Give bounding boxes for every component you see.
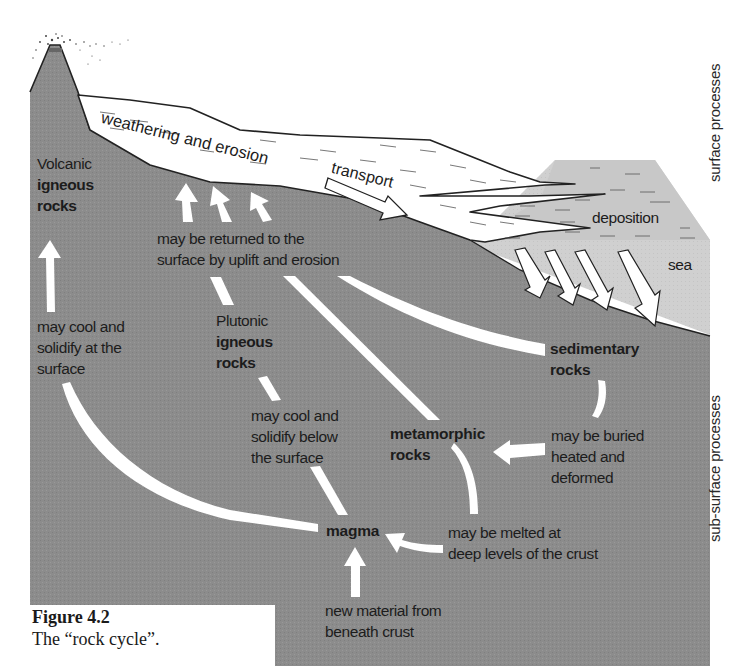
- cool-surface-line-1: may cool and: [37, 316, 124, 337]
- cool-at-surface-label: may cool and solidify at the surface: [37, 316, 124, 379]
- metamorphic-label: metamorphic: [390, 423, 485, 444]
- surface-processes-label: surface processes: [706, 64, 723, 182]
- uplift-line-2: surface by uplift and erosion: [157, 249, 339, 270]
- cool-surface-line-3: surface: [37, 358, 124, 379]
- sea-label: sea: [668, 254, 692, 275]
- subsurface-processes-label: sub-surface processes: [706, 395, 723, 542]
- figure-caption-text: The “rock cycle”.: [32, 628, 159, 650]
- uplift-line-1: may be returned to the: [157, 228, 339, 249]
- deposition-label: deposition: [592, 207, 659, 228]
- metamorphic-rocks-node: metamorphic rocks: [390, 423, 485, 465]
- sedimentary-label: sedimentary: [550, 338, 639, 359]
- figure-caption: Figure 4.2 The “rock cycle”.: [32, 606, 159, 650]
- buried-process-label: may be buried heated and deformed: [551, 425, 644, 488]
- magma-node: magma: [326, 520, 379, 541]
- figure-number: Figure 4.2: [32, 606, 159, 628]
- plutonic-igneous-label: igneous: [216, 331, 273, 352]
- metamorphic-rocks-label: rocks: [390, 444, 485, 465]
- buried-line-1: may be buried: [551, 425, 644, 446]
- new-material-label: new material from beneath crust: [325, 600, 441, 642]
- sedimentary-rocks-label: rocks: [550, 359, 639, 380]
- uplift-process-label: may be returned to the surface by uplift…: [157, 228, 339, 270]
- sedimentary-rocks-node: sedimentary rocks: [550, 338, 639, 380]
- buried-line-3: deformed: [551, 467, 644, 488]
- cool-surface-line-2: solidify at the: [37, 337, 124, 358]
- plutonic-label: Plutonic: [216, 310, 273, 331]
- buried-line-2: heated and: [551, 446, 644, 467]
- melted-line-1: may be melted at: [448, 522, 598, 543]
- plutonic-igneous-rocks-node: Plutonic igneous rocks: [216, 310, 273, 373]
- cool-below-surface-label: may cool and solidify below the surface: [251, 405, 338, 468]
- melted-process-label: may be melted at deep levels of the crus…: [448, 522, 598, 564]
- cool-below-line-2: solidify below: [251, 426, 338, 447]
- volcanic-rocks-label: rocks: [37, 195, 94, 216]
- plutonic-rocks-label: rocks: [216, 352, 273, 373]
- cool-below-line-3: the surface: [251, 447, 338, 468]
- new-material-line-1: new material from: [325, 600, 441, 621]
- volcanic-label: Volcanic: [37, 153, 94, 174]
- cool-below-line-1: may cool and: [251, 405, 338, 426]
- new-material-line-2: beneath crust: [325, 621, 441, 642]
- volcanic-igneous-label: igneous: [37, 174, 94, 195]
- melted-line-2: deep levels of the crust: [448, 543, 598, 564]
- volcanic-igneous-rocks-node: Volcanic igneous rocks: [37, 153, 94, 216]
